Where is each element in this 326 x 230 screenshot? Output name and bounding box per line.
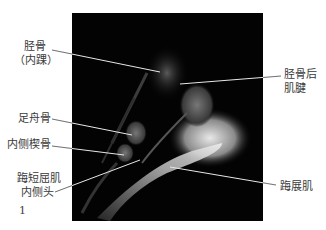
mri-foot-scan: [72, 13, 263, 221]
figure-number: 1: [19, 204, 26, 217]
label-tibia-line1: 胫骨: [24, 40, 46, 54]
leader-abductor-hallucis-outside: [263, 183, 276, 185]
label-tibia-sub: （内踝）: [14, 54, 58, 68]
label-navicular-line1: 足舟骨: [18, 112, 51, 126]
label-fhb-line2: 内侧头: [17, 186, 61, 200]
label-tibia: 胫骨: [24, 40, 46, 54]
label-tibia-line2: （内踝）: [14, 54, 58, 68]
leader-navicular-outside: [52, 119, 72, 123]
label-tibialis-posterior: 胫骨后 肌腱: [284, 68, 317, 96]
leader-medial-cuneiform-outside: [52, 146, 72, 149]
label-navicular: 足舟骨: [18, 112, 51, 126]
mri-image: [72, 13, 263, 221]
label-tibialis-posterior-line1: 胫骨后: [284, 68, 317, 82]
label-fhb-medial-head: 踇短屈肌 内侧头: [17, 172, 61, 200]
label-abductor-hallucis: 踇展肌: [280, 180, 313, 194]
label-fhb-line1: 踇短屈肌: [17, 172, 61, 186]
label-abductor-hallucis-line1: 踇展肌: [280, 180, 313, 194]
leader-tibialis-posterior-outside: [263, 76, 281, 78]
label-tibialis-posterior-line2: 肌腱: [284, 82, 317, 96]
label-medial-cuneiform: 内侧楔骨: [7, 138, 51, 152]
label-medial-cuneiform-line1: 内侧楔骨: [7, 138, 51, 152]
